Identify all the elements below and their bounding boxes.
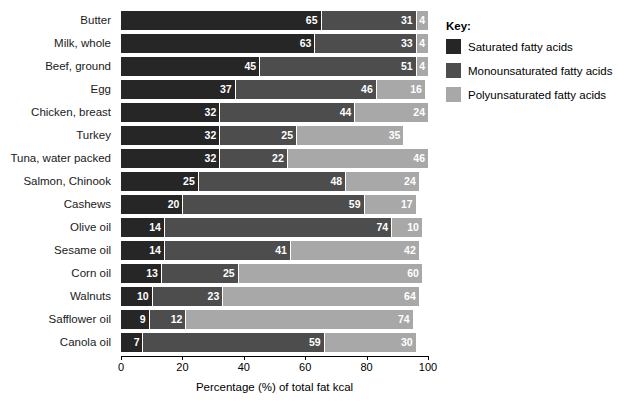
bar-segment-sat: 32 xyxy=(121,103,219,122)
legend-swatch-icon xyxy=(446,87,461,102)
bar-value-label: 45 xyxy=(244,57,256,76)
bar-segment-poly: 46 xyxy=(287,149,428,168)
bar-row: 91274 xyxy=(121,310,428,333)
bar-value-label: 13 xyxy=(146,264,158,283)
bar-value-label: 37 xyxy=(220,80,232,99)
stacked-bar: 322246 xyxy=(121,149,428,168)
x-axis-line xyxy=(121,356,428,357)
bar-value-label: 30 xyxy=(401,333,413,352)
bar-segment-poly: 35 xyxy=(296,126,403,145)
bar-value-label: 32 xyxy=(205,126,217,145)
category-label: Cashews xyxy=(0,195,116,218)
bar-row: 75930 xyxy=(121,333,428,356)
bar-segment-poly: 16 xyxy=(376,80,425,99)
stacked-bar: 63334 xyxy=(121,34,428,53)
legend-title: Key: xyxy=(446,20,621,32)
plot-area: 6531463334455143746163244243225353222462… xyxy=(121,11,428,356)
bar-segment-mono: 41 xyxy=(164,241,290,260)
bar-value-label: 32 xyxy=(205,149,217,168)
bar-value-label: 10 xyxy=(407,218,419,237)
category-label: Salmon, Chinook xyxy=(0,172,116,195)
bar-segment-sat: 7 xyxy=(121,333,142,352)
bar-row: 132560 xyxy=(121,264,428,287)
legend-items: Saturated fatty acidsMonounsaturated fat… xyxy=(446,39,621,102)
stacked-bar: 254824 xyxy=(121,172,428,191)
bar-value-label: 64 xyxy=(404,287,416,306)
bar-value-label: 65 xyxy=(306,11,318,30)
stacked-bar: 91274 xyxy=(121,310,428,329)
bar-row: 45514 xyxy=(121,57,428,80)
bar-value-label: 17 xyxy=(401,195,413,214)
legend-label: Polyunsaturated fatty acids xyxy=(468,89,606,101)
legend-label: Monounsaturated fatty acids xyxy=(468,65,612,77)
legend-swatch-icon xyxy=(446,63,461,78)
bar-row: 324424 xyxy=(121,103,428,126)
bar-segment-sat: 63 xyxy=(121,34,314,53)
bar-value-label: 33 xyxy=(401,34,413,53)
bar-row: 205917 xyxy=(121,195,428,218)
bar-value-label: 24 xyxy=(413,103,425,122)
bar-value-label: 51 xyxy=(401,57,413,76)
bar-segment-sat: 14 xyxy=(121,218,164,237)
category-axis-labels: ButterMilk, wholeBeef, groundEggChicken,… xyxy=(0,11,116,356)
bar-segment-mono: 48 xyxy=(198,172,345,191)
bar-segment-poly: 24 xyxy=(345,172,419,191)
legend-swatch-icon xyxy=(446,39,461,54)
category-label: Tuna, water packed xyxy=(0,149,116,172)
category-label: Walnuts xyxy=(0,287,116,310)
bar-value-label: 46 xyxy=(361,80,373,99)
bar-row: 144142 xyxy=(121,241,428,264)
stacked-bar: 144142 xyxy=(121,241,428,260)
x-axis-tick xyxy=(182,356,183,360)
bar-segment-poly: 17 xyxy=(364,195,416,214)
bar-segment-poly: 64 xyxy=(222,287,418,306)
bar-segment-poly: 4 xyxy=(416,57,428,76)
bar-segment-poly: 74 xyxy=(185,310,412,329)
bar-row: 254824 xyxy=(121,172,428,195)
category-label: Safflower oil xyxy=(0,310,116,333)
stacked-bar: 147410 xyxy=(121,218,428,237)
stacked-bar: 75930 xyxy=(121,333,428,352)
bar-value-label: 23 xyxy=(208,287,220,306)
bar-segment-sat: 65 xyxy=(121,11,321,30)
bar-value-label: 42 xyxy=(404,241,416,260)
category-label: Beef, ground xyxy=(0,57,116,80)
bar-segment-mono: 44 xyxy=(219,103,354,122)
bar-value-label: 63 xyxy=(300,34,312,53)
x-axis-tick xyxy=(428,356,429,360)
bar-value-label: 32 xyxy=(205,103,217,122)
stacked-bar: 205917 xyxy=(121,195,428,214)
bar-segment-sat: 9 xyxy=(121,310,149,329)
bar-segment-mono: 23 xyxy=(152,287,223,306)
bar-value-label: 25 xyxy=(281,126,293,145)
x-axis-tick-label: 40 xyxy=(238,361,250,373)
bar-segment-mono: 59 xyxy=(182,195,363,214)
bar-value-label: 22 xyxy=(272,149,284,168)
x-axis-tick-label: 0 xyxy=(118,361,124,373)
bar-value-label: 7 xyxy=(134,333,140,352)
bar-value-label: 74 xyxy=(398,310,410,329)
bar-segment-sat: 20 xyxy=(121,195,182,214)
bar-segment-sat: 25 xyxy=(121,172,198,191)
stacked-bar: 132560 xyxy=(121,264,428,283)
stacked-bar: 65314 xyxy=(121,11,428,30)
bar-segment-mono: 22 xyxy=(219,149,287,168)
category-label: Canola oil xyxy=(0,333,116,356)
stacked-bar-chart: ButterMilk, wholeBeef, groundEggChicken,… xyxy=(0,0,626,408)
bar-row: 322535 xyxy=(121,126,428,149)
bar-segment-mono: 25 xyxy=(219,126,296,145)
legend-item: Saturated fatty acids xyxy=(446,39,621,54)
bar-value-label: 31 xyxy=(401,11,413,30)
bar-value-label: 48 xyxy=(330,172,342,191)
bar-segment-mono: 12 xyxy=(149,310,186,329)
stacked-bar: 322535 xyxy=(121,126,428,145)
stacked-bar: 324424 xyxy=(121,103,428,122)
x-axis-title: Percentage (%) of total fat kcal xyxy=(121,381,428,393)
legend: Key: Saturated fatty acidsMonounsaturate… xyxy=(446,20,621,111)
bar-value-label: 74 xyxy=(376,218,388,237)
legend-item: Polyunsaturated fatty acids xyxy=(446,87,621,102)
bar-value-label: 4 xyxy=(419,11,425,30)
bar-segment-poly: 30 xyxy=(324,333,416,352)
stacked-bar: 45514 xyxy=(121,57,428,76)
bar-segment-mono: 31 xyxy=(321,11,416,30)
